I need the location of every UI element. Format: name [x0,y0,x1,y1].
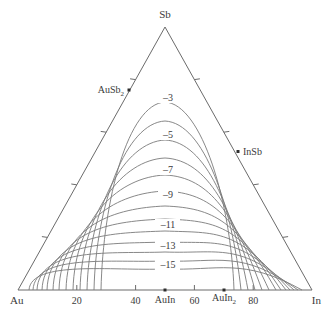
contour-label--7: –7 [162,164,173,175]
corner-label-sb: Sb [159,8,171,20]
compound-label-auin-text: AuIn [155,294,176,305]
contour-label--15: –15 [160,259,176,270]
compound-label-ausb2-sub: 2 [121,90,125,98]
compound-label-insb: InSb [243,146,262,157]
tick-label-60: 60 [189,295,199,306]
contour-labels: –3 –5 –7 –9 –11 –13 –15 [155,92,180,270]
marker-auin [164,289,167,292]
contour-label--3: –3 [162,92,173,103]
left-tick-4 [130,79,136,80]
ternary-phase-diagram: Sb Au In 20 40 60 80 AuSb2 InSb AuIn AuI… [0,0,331,323]
axis-left-edge [18,27,165,290]
right-tick-1 [194,79,200,80]
compound-label-auin2: AuIn2 [212,292,237,306]
tick-label-40: 40 [131,295,141,306]
right-tick-2 [224,131,230,132]
compound-label-auin: AuIn [155,294,176,305]
left-tick-2 [71,184,77,185]
tick-label-80: 80 [248,295,258,306]
contour-label--5: –5 [162,129,173,140]
left-tick-1 [42,237,48,238]
diagram-canvas: Sb Au In 20 40 60 80 AuSb2 InSb AuIn AuI… [0,0,331,323]
marker-ausb2 [128,89,131,92]
tick-label-20: 20 [72,295,82,306]
compound-label-insb-text: InSb [243,146,262,157]
compound-label-auin2-text: AuIn [212,292,233,303]
contour-label--13: –13 [160,240,176,251]
marker-insb [237,150,240,153]
corner-label-au: Au [10,294,24,306]
left-tick-3 [101,131,107,132]
compound-labels: AuSb2 InSb AuIn AuIn2 [98,84,262,306]
contour-label--9: –9 [162,189,173,200]
compound-label-ausb2-text: AuSb [98,84,121,95]
right-tick-4 [283,237,289,238]
contour-label--11: –11 [160,219,176,230]
axis-right-edge [165,27,312,290]
compound-label-ausb2: AuSb2 [98,84,125,98]
corner-label-in: In [312,294,322,306]
right-tick-3 [253,184,259,185]
compound-label-auin2-sub: 2 [233,298,237,306]
